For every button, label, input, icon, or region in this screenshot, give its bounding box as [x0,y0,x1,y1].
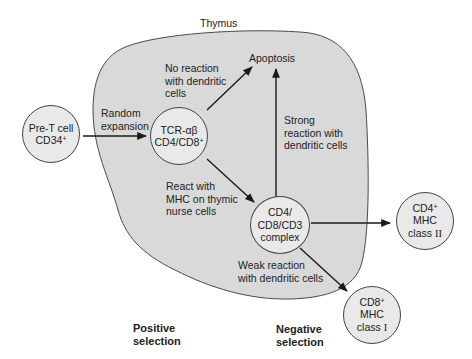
thymus-label: Thymus [200,17,237,30]
no-reaction-label: No reaction with dendritic cells [165,62,226,100]
thymus-region [93,31,368,299]
pre-t-cell-line2: CD34+ [36,134,67,147]
tcr-line1: TCR-αβ [160,124,197,137]
tcr-line2: CD4/CD8+ [154,136,203,149]
negative-selection-label: Negative selection [276,323,324,349]
pre-t-cell-line1: Pre-T cell [29,122,74,135]
random-expansion-label: Random expansion [101,107,149,132]
cd8-mhc-class-i-node: CD8+ MHC class I [343,286,401,344]
strong-reaction-label: Strong reaction with dendritic cells [284,114,348,152]
cd4-cd8-cd3-complex-node: CD4/ CD8/CD3 complex [250,196,310,254]
react-mhc-label: React with MHC on thymic nurse cells [166,180,238,218]
positive-selection-label: Positive selection [133,322,181,348]
apoptosis-label: Apoptosis [249,52,295,65]
tcr-cell-node: TCR-αβ CD4/CD8+ [150,107,208,165]
pre-t-cell-node: Pre-T cell CD34+ [22,105,80,163]
cd4-mhc-class-ii-node: CD4+ MHC class II [396,192,454,250]
weak-reaction-label: Weak reaction with dendritic cells [238,259,323,284]
